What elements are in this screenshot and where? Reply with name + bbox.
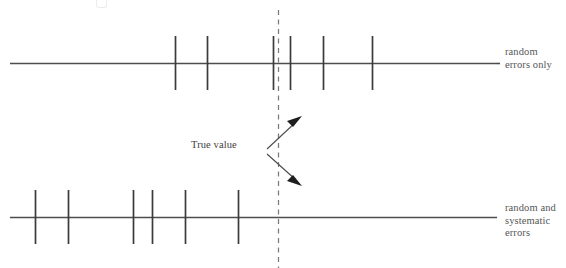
true-value-arrow-lower-head: [287, 175, 302, 186]
axis-group-random-errors-only: [10, 36, 500, 90]
true-value-arrow-group: [267, 116, 302, 186]
legend-label-random-and-systematic-errors: random and systematic errors: [505, 202, 565, 240]
true-value-label: True value: [191, 139, 237, 152]
axis-group-random-and-systematic-errors: [10, 190, 497, 244]
true-value-arrow-upper-shaft: [267, 122, 296, 149]
true-value-arrow-lower-shaft: [267, 154, 296, 180]
legend-label-random-errors-only: random errors only: [505, 46, 565, 71]
diagram-canvas: [0, 0, 566, 268]
errors-diagram: random errors only random and systematic…: [0, 0, 566, 268]
true-value-arrow-upper-head: [287, 116, 302, 127]
